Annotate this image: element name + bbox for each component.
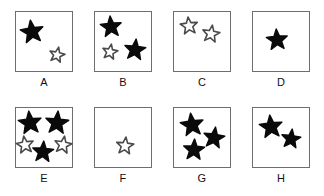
panel-label-f: F: [94, 172, 152, 184]
panel-label-e: E: [15, 172, 73, 184]
outline-star-icon: [53, 135, 74, 156]
outline-star-icon: [48, 46, 67, 65]
filled-star-icon: [202, 126, 227, 151]
panel-label-c: C: [173, 76, 231, 88]
panel-label-h: H: [252, 172, 310, 184]
outline-star-icon: [101, 43, 120, 62]
outline-star-icon: [201, 24, 222, 45]
filled-star-icon: [265, 28, 288, 51]
filled-star-icon: [182, 138, 205, 161]
panel-label-g: G: [173, 172, 231, 184]
panel-label-b: B: [94, 76, 152, 88]
star-panels-figure: ABCDEFGH: [0, 0, 324, 196]
outline-star-icon: [179, 16, 199, 36]
filled-star-icon: [44, 110, 70, 136]
filled-star-icon: [99, 15, 123, 39]
filled-star-icon: [17, 110, 43, 136]
panel-label-a: A: [15, 76, 73, 88]
filled-star-icon: [18, 18, 45, 45]
filled-star-icon: [123, 38, 147, 62]
filled-star-icon: [31, 140, 54, 163]
panel-label-d: D: [252, 76, 310, 88]
outline-star-icon: [115, 136, 135, 156]
filled-star-icon: [280, 128, 302, 150]
filled-star-icon: [179, 112, 206, 139]
